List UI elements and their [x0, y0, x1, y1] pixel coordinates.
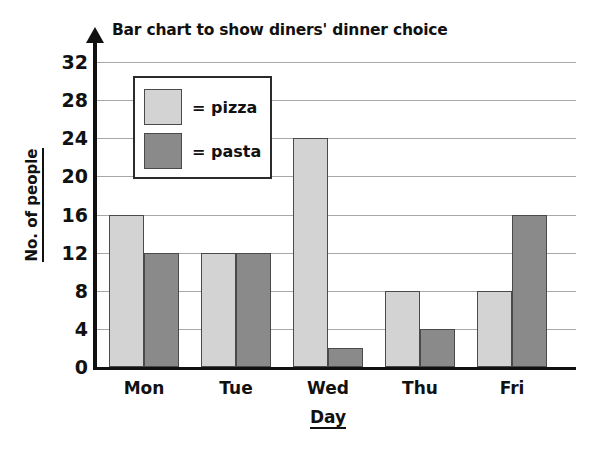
bar-wed-pizza: [293, 138, 328, 367]
y-axis-tick-label: 0: [44, 356, 88, 378]
y-axis-title-text: No. of people: [23, 148, 44, 261]
y-axis-title: No. of people: [23, 140, 41, 270]
y-axis-tick-label: 4: [44, 318, 88, 340]
bar-fri-pizza: [477, 291, 512, 367]
legend-item-pizza: = pizza: [144, 85, 270, 129]
y-axis-tick-label: 16: [44, 204, 88, 226]
x-axis-title-text: Day: [310, 407, 346, 429]
bar-thu-pizza: [385, 291, 420, 367]
x-axis-line: [93, 367, 576, 370]
y-axis-tick-label: 28: [44, 89, 88, 111]
x-axis-title: Day: [273, 407, 383, 427]
y-axis-tick-label: 32: [44, 51, 88, 73]
bar-wed-pasta: [328, 348, 363, 367]
legend-label-pasta: = pasta: [192, 142, 261, 161]
chart-title: Bar chart to show diners' dinner choice: [112, 21, 512, 39]
legend-item-pasta: = pasta: [144, 129, 270, 173]
chart-legend: = pizza= pasta: [133, 76, 272, 179]
bar-mon-pizza: [109, 215, 144, 368]
y-axis-tick-label: 24: [44, 127, 88, 149]
bar-fri-pasta: [512, 215, 547, 368]
x-axis-tick-label-fri: Fri: [457, 378, 567, 398]
gridline: [97, 215, 576, 216]
bar-chart: Bar chart to show diners' dinner choice …: [0, 0, 591, 449]
bar-tue-pasta: [236, 253, 271, 367]
y-axis-tick-label: 8: [44, 280, 88, 302]
legend-swatch-pasta: [144, 133, 182, 169]
bar-tue-pizza: [201, 253, 236, 367]
legend-label-pizza: = pizza: [192, 98, 257, 117]
bar-mon-pasta: [144, 253, 179, 367]
bar-thu-pasta: [420, 329, 455, 367]
gridline: [97, 62, 576, 63]
legend-swatch-pizza: [144, 89, 182, 125]
y-axis-tick-label: 20: [44, 165, 88, 187]
y-axis-tick-label: 12: [44, 242, 88, 264]
